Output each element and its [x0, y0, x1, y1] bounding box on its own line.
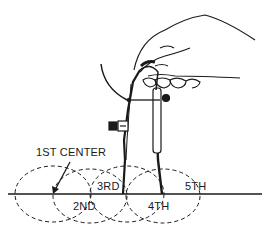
dividers-icon: [101, 64, 170, 194]
circle-4: [126, 169, 200, 223]
label-5th: 5TH: [185, 180, 206, 192]
label-3rd: 3RD: [97, 180, 120, 192]
divider-illustration: [0, 0, 268, 236]
label-4th: 4TH: [148, 200, 169, 212]
label-2nd: 2ND: [73, 200, 96, 212]
label-1st-center: 1ST CENTER: [36, 146, 106, 158]
hand-icon: [134, 15, 255, 88]
pointer-arrow: [55, 162, 70, 190]
